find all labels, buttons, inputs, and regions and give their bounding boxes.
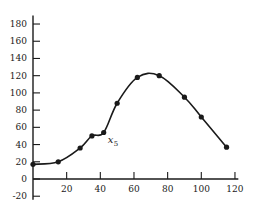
y-tick-label: 140 <box>10 53 27 63</box>
y-tick-label: 120 <box>10 71 27 81</box>
y-tick-label: 20 <box>16 157 28 167</box>
chart: -200204060801001201401601802040608010012… <box>0 0 254 207</box>
data-point <box>182 95 187 100</box>
ticks: -200204060801001201401601802040608010012… <box>10 19 244 201</box>
axes <box>33 15 238 199</box>
y-tick-label: -20 <box>13 191 28 201</box>
data-curve <box>33 73 227 164</box>
x-tick-label: 60 <box>128 184 140 194</box>
data-point <box>78 145 83 150</box>
data-point <box>135 75 140 80</box>
data-point <box>30 162 35 167</box>
data-point <box>157 73 162 78</box>
data-point <box>224 145 229 150</box>
x-tick-label: 20 <box>61 184 73 194</box>
x-tick-label: 100 <box>193 184 210 194</box>
x-tick-label: 80 <box>162 184 174 194</box>
data-point <box>199 114 204 119</box>
x-tick-label: 40 <box>95 184 107 194</box>
data-point <box>115 101 120 106</box>
x-tick-label: 120 <box>226 184 243 194</box>
y-tick-label: 60 <box>16 122 28 132</box>
point-label-subscript: 5 <box>114 140 118 148</box>
y-tick-label: 100 <box>10 88 27 98</box>
y-tick-label: 0 <box>21 174 27 184</box>
y-tick-label: 80 <box>16 105 28 115</box>
y-tick-label: 180 <box>10 19 27 29</box>
data-point <box>56 159 61 164</box>
y-tick-label: 160 <box>10 36 27 46</box>
data-point <box>89 133 94 138</box>
data-point <box>101 130 106 135</box>
y-tick-label: 40 <box>16 140 28 150</box>
data-points <box>30 73 229 167</box>
annotations: x5 <box>108 134 118 148</box>
